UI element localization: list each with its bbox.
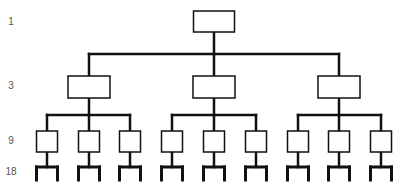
node-level-3	[68, 76, 110, 98]
node-level-9	[120, 131, 141, 152]
node-level-3	[193, 76, 235, 98]
node-level-9	[246, 131, 267, 152]
node-level-9	[329, 131, 350, 152]
node-level-9	[371, 131, 392, 152]
hierarchy-diagram	[0, 0, 407, 187]
node-level-3	[318, 76, 360, 98]
node-level-9	[162, 131, 183, 152]
node-level-1	[194, 11, 235, 32]
node-level-9	[288, 131, 309, 152]
node-level-9	[37, 131, 58, 152]
node-level-9	[79, 131, 100, 152]
node-level-9	[204, 131, 225, 152]
